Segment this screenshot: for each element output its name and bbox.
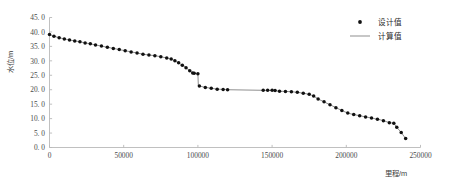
data-point	[94, 43, 98, 47]
data-point	[48, 33, 52, 37]
data-point	[177, 61, 181, 65]
y-tick-label: 30. 0	[30, 57, 45, 66]
data-point	[210, 87, 214, 91]
data-point	[334, 106, 338, 110]
x-tick-label: 0	[48, 151, 52, 160]
data-point	[135, 51, 139, 55]
data-point	[100, 44, 104, 48]
data-point	[184, 66, 188, 70]
y-tick-label: 45. 0	[30, 13, 45, 22]
data-point	[395, 126, 399, 130]
data-point	[215, 87, 219, 91]
y-tick-label: 5. 0	[34, 129, 45, 138]
data-point	[204, 86, 208, 90]
data-point	[153, 54, 157, 58]
data-point	[382, 119, 386, 123]
data-point	[296, 91, 300, 95]
x-tick-label: 250000	[409, 151, 431, 160]
y-tick-label: 0. 0	[34, 143, 45, 152]
legend-label: 设计值	[378, 17, 402, 27]
data-point	[261, 89, 265, 93]
data-point	[221, 88, 225, 92]
legend-marker-icon	[358, 20, 362, 24]
x-tick-label: 100000	[187, 151, 209, 160]
data-point	[169, 57, 173, 61]
data-point	[404, 137, 408, 141]
data-point	[192, 72, 196, 76]
data-point	[106, 46, 110, 50]
y-tick-label: 15. 0	[30, 100, 45, 109]
data-point	[307, 93, 311, 97]
y-tick-label: 10. 0	[30, 114, 45, 123]
data-point	[52, 35, 56, 39]
data-point	[364, 115, 368, 119]
data-point	[328, 103, 332, 107]
data-point	[312, 94, 316, 98]
data-point	[290, 90, 294, 94]
plot-background	[0, 0, 450, 188]
data-point	[118, 48, 122, 52]
data-point	[316, 97, 320, 101]
data-point	[78, 40, 82, 44]
chart-figure: 050000100000150000200000250000 0. 05. 01…	[0, 0, 450, 188]
data-point	[57, 36, 61, 40]
data-point	[226, 88, 230, 92]
data-point	[141, 52, 145, 56]
data-point	[198, 84, 202, 88]
data-point	[89, 42, 93, 46]
data-point	[376, 117, 380, 121]
data-point	[322, 100, 326, 104]
data-point	[388, 121, 392, 125]
data-point	[123, 49, 127, 53]
legend-label: 计算值	[378, 31, 402, 41]
data-point	[165, 56, 169, 60]
data-point	[340, 109, 344, 113]
y-tick-label: 20. 0	[30, 85, 45, 94]
data-point	[392, 121, 396, 125]
data-point	[112, 47, 116, 51]
data-point	[302, 91, 306, 95]
y-tick-label: 25. 0	[30, 71, 45, 80]
y-axis-title: 水位/m	[6, 51, 15, 73]
data-point	[399, 131, 403, 135]
data-point	[73, 39, 77, 43]
data-point	[270, 89, 274, 93]
data-point	[83, 41, 87, 45]
water-level-profile-chart: 050000100000150000200000250000 0. 05. 01…	[0, 0, 450, 188]
x-tick-label: 150000	[261, 151, 283, 160]
data-point	[181, 63, 185, 67]
data-point	[284, 90, 288, 94]
data-point	[173, 59, 177, 63]
data-point	[188, 69, 192, 73]
y-tick-label: 35. 0	[30, 42, 45, 51]
data-point	[266, 89, 270, 93]
y-tick-label: 40. 0	[30, 28, 45, 37]
data-point	[129, 50, 133, 54]
data-point	[352, 113, 356, 117]
data-point	[358, 114, 362, 118]
data-point	[68, 38, 72, 42]
data-point	[63, 37, 67, 41]
x-axis-title: 里程/m	[385, 169, 407, 178]
data-point	[370, 116, 374, 120]
data-point	[159, 55, 163, 59]
x-tick-label: 200000	[335, 151, 357, 160]
data-point	[273, 89, 277, 93]
data-point	[278, 89, 282, 93]
x-tick-label: 50000	[114, 151, 133, 160]
data-point	[147, 53, 151, 57]
data-point	[196, 72, 200, 76]
data-point	[346, 111, 350, 115]
